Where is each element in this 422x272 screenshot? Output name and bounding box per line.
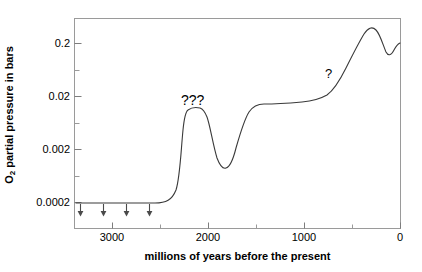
y-tick-label-0: 0.2 <box>26 37 70 49</box>
oxygen-history-chart: 0.2 0.02 0.002 0.0002 3000 2000 1000 0 ?… <box>0 0 422 272</box>
annotation-triple-question: ??? <box>181 92 204 108</box>
y-axis-title: O2 partial pressure in bars <box>0 0 18 230</box>
annotation-single-question: ? <box>325 66 332 81</box>
x-tick-label-1: 2000 <box>186 231 230 243</box>
upper-limit-arrow <box>147 204 153 217</box>
x-tick-label-3: 0 <box>378 231 422 243</box>
x-tick-label-0: 3000 <box>90 231 134 243</box>
axis-frame <box>75 19 401 229</box>
upper-limit-arrow <box>101 204 107 217</box>
y-axis-title-suffix: partial pressure in bars <box>3 46 15 171</box>
data-curve <box>76 28 400 203</box>
y-tick-label-1: 0.02 <box>26 90 70 102</box>
y-axis-title-prefix: O <box>3 175 15 184</box>
y-tick-label-3: 0.0002 <box>26 196 70 208</box>
y-axis-title-subscript: 2 <box>8 171 17 175</box>
y-axis-title-text: O2 partial pressure in bars <box>3 46 15 184</box>
upper-limit-arrow <box>78 204 84 217</box>
upper-limit-arrows <box>78 204 153 217</box>
y-tick-label-2: 0.002 <box>26 143 70 155</box>
x-axis-title: millions of years before the present <box>74 250 401 262</box>
y-minor-ticks <box>75 71 80 177</box>
x-tick-label-2: 1000 <box>282 231 326 243</box>
x-minor-ticks <box>161 225 353 229</box>
upper-limit-arrow <box>124 204 130 217</box>
